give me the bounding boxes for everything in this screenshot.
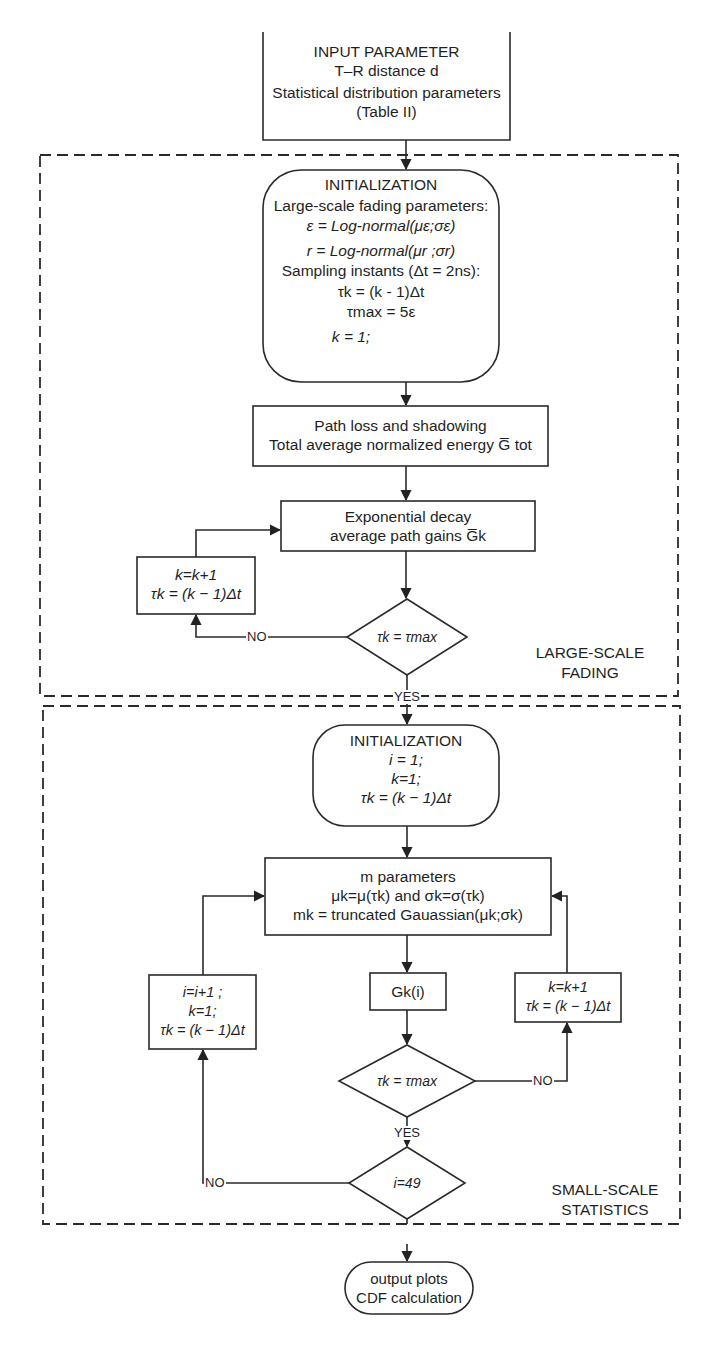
exp-decay-line-1: Exponential decay <box>281 507 535 526</box>
loop2-right-line-2: τk = (k − 1)Δt <box>515 997 621 1016</box>
output-line-2: CDF calculation <box>345 1288 473 1307</box>
loop2-left-line-2: k=1; <box>149 1002 256 1021</box>
exp-decay-line-2: average path gains G̅k <box>281 526 535 545</box>
output-terminator: output plots CDF calculation <box>345 1269 473 1307</box>
output-line-1: output plots <box>345 1269 473 1288</box>
loop1-line-2: τk = (k − 1)Δt <box>137 584 255 603</box>
init1-line-2: ε = Log-normal(με;σε) <box>263 216 499 237</box>
init2-line-3: τk = (k − 1)Δt <box>313 788 499 807</box>
g-box-label: Gk(i) <box>370 982 446 1001</box>
decision1-condition: τk = τmax <box>347 628 467 647</box>
decision2-no-label: NO <box>532 1074 554 1088</box>
init2-line-1: i = 1; <box>313 750 499 769</box>
g-box: Gk(i) <box>370 982 446 1001</box>
init1-line-1: Large-scale fading parameters: <box>263 196 499 217</box>
decision3-no-label: NO <box>204 1176 226 1190</box>
loop1-line-1: k=k+1 <box>137 565 255 584</box>
path-loss-box: Path loss and shadowing Total average no… <box>253 416 548 454</box>
loop2-right-line-1: k=k+1 <box>515 978 621 997</box>
decision1-yes-label: YES <box>393 690 421 704</box>
decision3-condition: i=49 <box>349 1174 465 1193</box>
init1-line-3: r = Log-normal(μr ;σr) <box>263 241 499 262</box>
init1-box: INITIALIZATION Large-scale fading parame… <box>263 175 499 347</box>
input-stat-params: Statistical distribution parameters <box>263 83 510 102</box>
input-title: INPUT PARAMETER <box>263 42 510 61</box>
init1-line-7: k = 1; <box>263 327 439 348</box>
input-parameter-box: INPUT PARAMETER T–R distance d Statistic… <box>263 42 510 121</box>
m-params-line-2: μk=μ(τk) and σk=σ(τk) <box>265 886 551 905</box>
init1-title: INITIALIZATION <box>263 175 499 196</box>
small-scale-statistics-label: SMALL-SCALE STATISTICS <box>540 1180 670 1220</box>
large-scale-fading-label: LARGE-SCALE FADING <box>525 643 655 683</box>
init2-line-2: k=1; <box>313 769 499 788</box>
init2-box: INITIALIZATION i = 1; k=1; τk = (k − 1)Δ… <box>313 731 499 807</box>
loop2-left-box: i=i+1 ; k=1; τk = (k − 1)Δt <box>149 983 256 1040</box>
decision2-yes-label: YES <box>393 1126 421 1140</box>
decision1-no-label: NO <box>246 630 268 644</box>
path-loss-line-1: Path loss and shadowing <box>253 416 548 435</box>
loop2-left-line-3: τk = (k − 1)Δt <box>149 1021 256 1040</box>
input-tr-distance: T–R distance d <box>263 61 510 80</box>
m-params-box: m parameters μk=μ(τk) and σk=σ(τk) mk = … <box>265 867 551 924</box>
init2-title: INITIALIZATION <box>313 731 499 750</box>
m-params-line-3: mk = truncated Gauassian(μk;σk) <box>265 905 551 924</box>
loop1-box: k=k+1 τk = (k − 1)Δt <box>137 565 255 603</box>
input-table-ref: (Table II) <box>263 102 510 121</box>
loop2-left-line-1: i=i+1 ; <box>149 983 256 1002</box>
init1-line-6: τmax = 5ε <box>263 302 499 323</box>
exp-decay-box: Exponential decay average path gains G̅k <box>281 507 535 545</box>
init1-line-5: τk = (k - 1)Δt <box>263 282 499 303</box>
decision2-condition: τk = τmax <box>339 1072 475 1091</box>
decision3: i=49 <box>349 1174 465 1193</box>
decision1: τk = τmax <box>347 628 467 647</box>
decision2: τk = τmax <box>339 1072 475 1091</box>
m-params-line-1: m parameters <box>265 867 551 886</box>
loop2-right-box: k=k+1 τk = (k − 1)Δt <box>515 978 621 1016</box>
path-loss-line-2: Total average normalized energy G̅ tot <box>253 435 548 454</box>
init1-line-4: Sampling instants (Δt = 2ns): <box>263 261 499 282</box>
